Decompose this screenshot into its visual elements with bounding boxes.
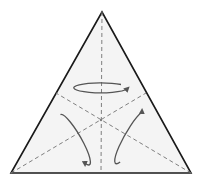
triangle-symmetry-diagram (0, 0, 201, 189)
centroid-point (100, 119, 102, 121)
